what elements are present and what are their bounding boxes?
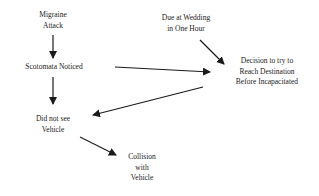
node-label: Reach Destination: [222, 67, 312, 78]
node-migraine-attack: Migraine Attack: [33, 10, 73, 31]
node-did-not-see-vehicle: Did not see Vehicle: [28, 114, 78, 135]
node-label: Due at Wedding: [146, 13, 226, 24]
edge-decision-to-didnotsee: [93, 87, 203, 115]
node-label: Did not see: [28, 114, 78, 125]
node-collision-with-vehicle: Collision with Vehicle: [122, 152, 162, 184]
node-label: Migraine: [33, 10, 73, 21]
node-label: Before Incapacitated: [222, 77, 312, 88]
node-due-at-wedding: Due at Wedding in One Hour: [146, 13, 226, 34]
node-label: Attack: [33, 21, 73, 32]
edge-wedding-to-decision: [200, 40, 224, 64]
node-label: Scotomata Noticed: [14, 62, 94, 73]
node-label: with: [122, 163, 162, 174]
node-scotomata-noticed: Scotomata Noticed: [14, 62, 94, 73]
causal-diagram: Migraine Attack Scotomata Noticed Due at…: [0, 0, 319, 196]
node-label: in One Hour: [146, 24, 226, 35]
edge-scotomata-to-decision: [115, 67, 210, 72]
node-label: Collision: [122, 152, 162, 163]
node-label: Vehicle: [28, 125, 78, 136]
node-label: Vehicle: [122, 173, 162, 184]
edge-didnotsee-to-collision: [80, 137, 116, 155]
node-decision: Decision to try to Reach Destination Bef…: [222, 56, 312, 88]
node-label: Decision to try to: [222, 56, 312, 67]
